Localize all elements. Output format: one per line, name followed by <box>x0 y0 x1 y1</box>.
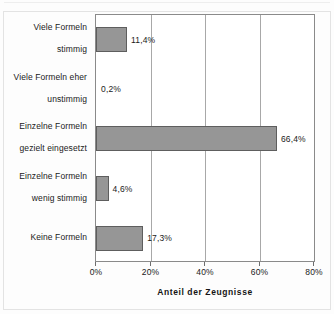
category-label-2-line1: Einzelne Formeln <box>19 121 87 132</box>
top-rule-divider <box>4 2 330 3</box>
category-label-3-line2: wenig stimmig <box>19 193 87 204</box>
bar-viele-formeln-stimmig[interactable]: 11,4% <box>96 27 127 52</box>
bar-value-3: 4,6% <box>113 184 133 194</box>
bar-row-2: 66,4% <box>96 114 314 164</box>
category-label-1: Viele Formeln eher unstimmig <box>0 64 87 114</box>
chart-page: Viele Formeln stimmig Viele Formeln eher… <box>0 0 334 314</box>
bar-einzelne-formeln-gezielt-eingesetzt[interactable]: 66,4% <box>96 126 277 151</box>
bar-row-0: 11,4% <box>96 15 314 65</box>
category-label-4: Keine Formeln <box>0 212 87 262</box>
x-tick-mark-4 <box>313 262 314 266</box>
x-axis-title: Anteil der Zeugnisse <box>95 287 315 297</box>
x-tick-mark-0 <box>95 262 96 266</box>
bar-value-0: 11,4% <box>131 35 155 45</box>
x-tick-label-3: 60% <box>251 267 268 277</box>
bar-row-3: 4,6% <box>96 164 314 214</box>
category-label-1-line2: unstimmig <box>14 94 87 105</box>
category-label-0: Viele Formeln stimmig <box>0 14 87 64</box>
x-tick-label-1: 20% <box>142 267 159 277</box>
bar-einzelne-formeln-wenig-stimmig[interactable]: 4,6% <box>96 176 109 201</box>
bar-row-1: 0,2% <box>96 65 314 115</box>
x-tick-label-0: 0% <box>90 267 103 277</box>
x-tick-label-4: 80% <box>305 267 322 277</box>
bar-value-4: 17,3% <box>147 233 172 243</box>
category-label-3-line1: Einzelne Formeln <box>19 171 87 182</box>
category-axis-labels: Viele Formeln stimmig Viele Formeln eher… <box>0 14 91 262</box>
category-label-4-line1: Keine Formeln <box>30 232 87 243</box>
category-label-2: Einzelne Formeln gezielt eingesetzt <box>0 113 87 163</box>
bar-value-1: 0,2% <box>101 84 121 94</box>
bar-keine-formeln[interactable]: 17,3% <box>96 226 143 251</box>
category-label-0-line1: Viele Formeln <box>33 22 87 33</box>
category-label-1-line1: Viele Formeln eher <box>14 72 87 83</box>
x-axis: 0% 20% 40% 60% 80% <box>95 262 315 280</box>
category-label-0-line2: stimmig <box>33 44 87 55</box>
x-tick-mark-3 <box>259 262 260 266</box>
x-tick-mark-1 <box>150 262 151 266</box>
x-tick-label-2: 40% <box>196 267 213 277</box>
category-label-3: Einzelne Formeln wenig stimmig <box>0 163 87 213</box>
bar-value-2: 66,4% <box>281 134 306 144</box>
category-label-2-line2: gezielt eingesetzt <box>19 143 87 154</box>
bar-row-4: 17,3% <box>96 213 314 263</box>
x-tick-mark-2 <box>204 262 205 266</box>
plot-area: 11,4% 0,2% 66,4% 4,6% 17,3% <box>95 14 315 262</box>
